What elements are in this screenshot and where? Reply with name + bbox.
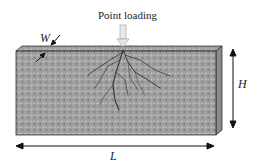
point-loading-label: Point loading (98, 10, 157, 21)
height-label: H (238, 78, 247, 90)
width-label: W (40, 32, 50, 44)
specimen-top-face (16, 46, 222, 51)
length-label: L (110, 150, 117, 162)
load-arrow-icon (117, 25, 129, 47)
specimen-side-face (216, 46, 222, 135)
height-arrow (230, 49, 236, 128)
specimen-front-face (16, 51, 216, 135)
specimen-diagram (0, 0, 259, 166)
